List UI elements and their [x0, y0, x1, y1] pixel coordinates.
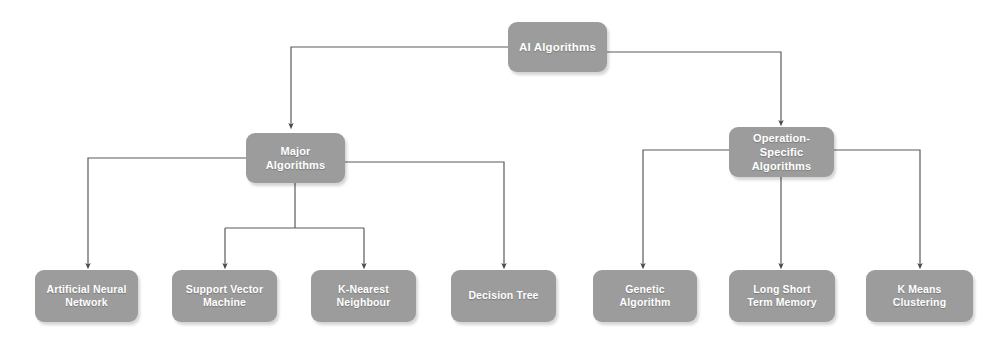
node-label-long-short-term-memory: Long Short Term Memory	[735, 283, 829, 310]
node-operation-specific-algorithms[interactable]: Operation- Specific Algorithms	[729, 127, 834, 177]
connector-major-bus	[225, 183, 364, 228]
diagram-canvas: AI Algorithms Major Algorithms Operation…	[0, 0, 1003, 351]
connector-operation-right-bus	[834, 150, 920, 266]
node-label-artificial-neural-network: Artificial Neural Network	[41, 283, 132, 310]
node-label-ai-algorithms: AI Algorithms	[514, 40, 601, 55]
node-label-major-algorithms: Major Algorithms	[252, 144, 339, 172]
node-long-short-term-memory[interactable]: Long Short Term Memory	[729, 270, 835, 322]
node-genetic-algorithm[interactable]: Genetic Algorithm	[593, 270, 697, 322]
node-decision-tree[interactable]: Decision Tree	[451, 270, 556, 322]
connector-major-to-ann	[88, 158, 246, 266]
node-label-operation-specific-algorithms: Operation- Specific Algorithms	[735, 131, 828, 173]
connector-operation-left-bus	[643, 150, 729, 266]
node-label-decision-tree: Decision Tree	[457, 289, 550, 302]
node-k-means-clustering[interactable]: K Means Clustering	[866, 270, 973, 322]
connector-major-to-decision-tree	[345, 162, 504, 266]
node-major-algorithms[interactable]: Major Algorithms	[246, 133, 345, 183]
node-ai-algorithms[interactable]: AI Algorithms	[508, 22, 607, 72]
connector-root-to-major	[291, 47, 508, 126]
node-label-support-vector-machine: Support Vector Machine	[178, 283, 271, 310]
node-artificial-neural-network[interactable]: Artificial Neural Network	[35, 270, 138, 322]
node-label-genetic-algorithm: Genetic Algorithm	[599, 283, 691, 310]
connector-root-to-operation	[607, 52, 781, 123]
node-support-vector-machine[interactable]: Support Vector Machine	[172, 270, 277, 322]
node-k-nearest-neighbour[interactable]: K-Nearest Neighbour	[311, 270, 416, 322]
node-label-k-means-clustering: K Means Clustering	[872, 283, 967, 310]
node-label-k-nearest-neighbour: K-Nearest Neighbour	[317, 283, 410, 310]
